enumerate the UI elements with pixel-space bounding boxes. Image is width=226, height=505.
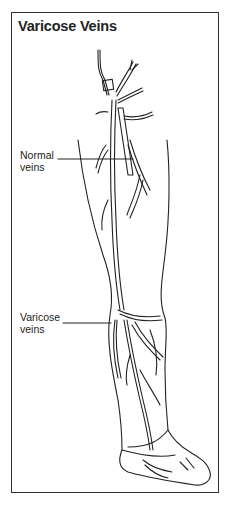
varicose-veins [114,310,194,478]
normal-veins [96,50,153,310]
leg-outline [78,140,210,485]
leg-illustration [0,0,226,505]
